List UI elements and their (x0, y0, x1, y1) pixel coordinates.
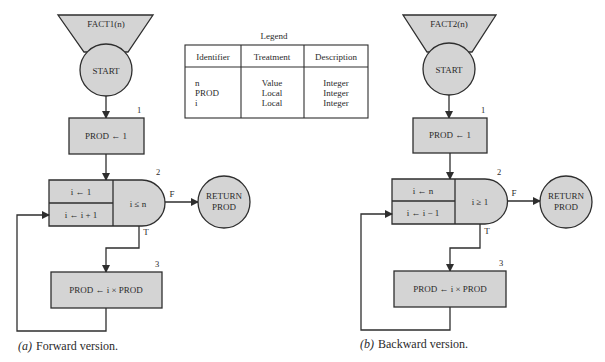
step2-number: 2 (497, 167, 501, 177)
step2-number: 2 (156, 167, 160, 177)
loop-condition: i ≤ n (130, 199, 147, 209)
legend-header-treatment: Treatment (254, 52, 291, 62)
step1-text: PROD ← 1 (429, 130, 471, 140)
return-line2: PROD (554, 202, 579, 212)
legend-row-treatment: Value (262, 78, 283, 88)
legend-row-description: Integer (323, 78, 348, 88)
step1-number: 1 (481, 105, 485, 115)
step1-text: PROD ← 1 (85, 131, 127, 141)
start-label: START (92, 66, 120, 76)
legend-table: Legend Identifier Treatment Description … (185, 31, 368, 118)
loop-init: i ← n (413, 186, 434, 196)
loop-init: i ← 1 (71, 187, 92, 197)
backward-flowchart: FACT2(n) START PROD ← 1 1 i ← n i ← i − … (360, 15, 592, 351)
legend-row-treatment: Local (262, 98, 283, 108)
step3-number: 3 (155, 259, 159, 269)
forward-flowchart: FACT1(n) START PROD ← 1 1 i ← 1 i ← i + … (17, 15, 250, 353)
arrow-true-to-step3 (106, 226, 139, 272)
loop-increment: i ← i − 1 (407, 208, 440, 218)
return-line1: RETURN (206, 191, 243, 201)
step3-number: 3 (499, 258, 503, 268)
factorial-flowcharts: FACT1(n) START PROD ← 1 1 i ← 1 i ← i + … (0, 0, 605, 362)
legend-row-description: Integer (323, 98, 348, 108)
caption-b: (b)Backward version. (360, 337, 468, 351)
caption-a: (a)Forward version. (18, 339, 118, 353)
procedure-name: FACT1(n) (87, 19, 124, 29)
return-line1: RETURN (548, 191, 585, 201)
start-label: START (435, 65, 463, 75)
true-label: T (143, 227, 149, 237)
loop-increment: i ← i + 1 (65, 210, 98, 220)
caption-text: Backward version. (378, 337, 468, 351)
legend-row-treatment: Local (262, 88, 283, 98)
caption-letter: (a) (18, 339, 32, 353)
legend-title: Legend (261, 31, 288, 41)
false-label: F (511, 188, 516, 198)
step1-number: 1 (137, 105, 141, 115)
false-label: F (169, 189, 174, 199)
arrow-true-to-step3 (450, 224, 480, 271)
legend-row-identifier: n (195, 78, 200, 88)
caption-letter: (b) (360, 337, 374, 351)
legend-row-description: Integer (323, 88, 348, 98)
step3-text: PROD ← i × PROD (413, 284, 487, 294)
procedure-name: FACT2(n) (430, 19, 467, 29)
caption-text: Forward version. (36, 339, 118, 353)
step3-text: PROD ← i × PROD (69, 285, 143, 295)
legend-header-identifier: Identifier (196, 52, 229, 62)
legend-header-description: Description (315, 52, 357, 62)
loop-condition: i ≥ 1 (472, 197, 488, 207)
legend-row-identifier: i (195, 98, 198, 108)
return-line2: PROD (212, 202, 237, 212)
legend-row-identifier: PROD (195, 88, 220, 98)
true-label: T (484, 226, 490, 236)
